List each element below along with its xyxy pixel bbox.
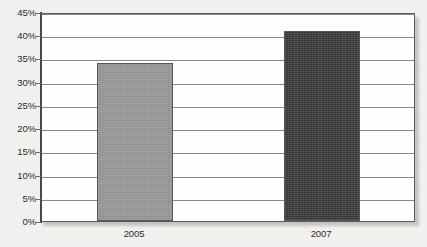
y-tick-15: [36, 152, 41, 153]
y-axis-label: 10%: [0, 171, 36, 181]
y-axis-label: 30%: [0, 78, 36, 88]
y-axis-label: 45%: [0, 8, 36, 18]
y-axis-label: 40%: [0, 31, 36, 41]
y-tick-45: [36, 13, 41, 14]
y-axis-label: 5%: [0, 194, 36, 204]
y-tick-25: [36, 106, 41, 107]
bar-chart: 45%40%35%30%25%20%15%10%5%0% 20052007: [0, 0, 427, 247]
bar-texture: [285, 32, 359, 220]
y-axis-label: 0%: [0, 217, 36, 227]
gridline-45: [41, 14, 414, 15]
y-tick-20: [36, 129, 41, 130]
bar-2005: [97, 63, 173, 221]
y-axis-label: 20%: [0, 124, 36, 134]
y-axis-labels: 45%40%35%30%25%20%15%10%5%0%: [0, 0, 36, 247]
bar-texture: [98, 64, 172, 220]
y-axis-label: 15%: [0, 147, 36, 157]
y-tick-40: [36, 36, 41, 37]
y-tick-5: [36, 199, 41, 200]
y-axis-label: 35%: [0, 54, 36, 64]
x-axis-label: 2007: [291, 228, 351, 240]
x-axis-label: 2005: [104, 228, 164, 240]
x-axis-labels: 20052007: [0, 228, 427, 244]
y-axis-line: [40, 12, 42, 223]
y-tick-35: [36, 59, 41, 60]
y-tick-0: [36, 222, 41, 223]
y-axis-label: 25%: [0, 101, 36, 111]
plot-area: [40, 13, 415, 222]
y-tick-10: [36, 176, 41, 177]
y-tick-30: [36, 83, 41, 84]
bar-2007: [284, 31, 360, 221]
